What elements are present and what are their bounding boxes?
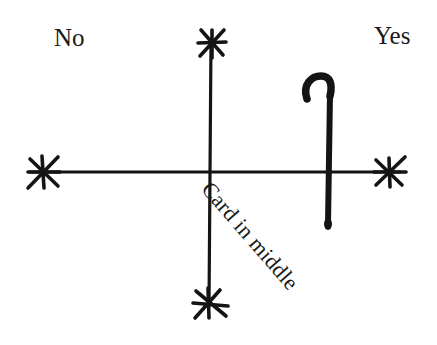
diagram-svg <box>0 0 437 345</box>
cane-icon <box>306 76 332 230</box>
label-no: No <box>54 25 85 50</box>
star-left-icon <box>28 156 60 188</box>
star-right-icon <box>374 157 406 187</box>
label-yes: Yes <box>374 23 410 48</box>
diagram-canvas: No Yes Card in middle <box>0 0 437 345</box>
vertical-axis-line <box>209 40 211 306</box>
star-top-icon <box>198 30 226 58</box>
